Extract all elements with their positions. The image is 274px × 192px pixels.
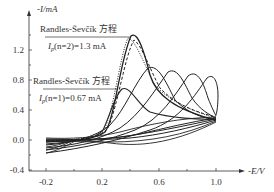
cv-curve-dotted xyxy=(46,38,216,141)
svg-text:Ip(n=1)=0.67 mA: Ip(n=1)=0.67 mA xyxy=(38,93,102,104)
y-axis-label: -I/mA xyxy=(37,4,58,14)
x-ticks xyxy=(46,168,216,171)
y-axis-arrow-icon xyxy=(27,10,31,16)
x-tick-labels: -0.2 0.2 0.6 1.0 xyxy=(39,177,222,187)
cyclic-voltammetry-chart: -0.4 0.0 0.4 0.8 1.2 -0.2 0.2 0.6 1.0 -I… xyxy=(0,0,274,192)
svg-text:0.2: 0.2 xyxy=(96,177,107,187)
x-axis-label: -E/V xyxy=(248,166,266,176)
annotation-n2: Randles-Ševčík 方程 Ip(n=2)=1.3 mA xyxy=(40,23,131,52)
svg-text:1.0: 1.0 xyxy=(210,177,222,187)
svg-text:-0.4: -0.4 xyxy=(10,165,25,175)
svg-text:1.2: 1.2 xyxy=(13,45,24,55)
svg-text:Randles-Ševčík 方程: Randles-Ševčík 方程 xyxy=(40,23,117,34)
svg-text:0.6: 0.6 xyxy=(153,177,165,187)
svg-text:0.8: 0.8 xyxy=(13,75,25,85)
svg-text:0.0: 0.0 xyxy=(13,135,25,145)
x-axis-arrow-icon xyxy=(239,169,245,173)
y-tick-labels: -0.4 0.0 0.4 0.8 1.2 xyxy=(10,45,25,175)
y-ticks xyxy=(29,35,32,170)
svg-text:-0.2: -0.2 xyxy=(39,177,53,187)
cv-curve-1 xyxy=(46,35,216,142)
annotation-n1: Randles-Ševčík 方程 Ip(n=1)=0.67 mA xyxy=(33,75,118,104)
svg-text:Randles-Ševčík 方程: Randles-Ševčík 方程 xyxy=(33,75,110,86)
cv-curve-dashed xyxy=(46,40,216,141)
svg-text:Ip(n=2)=1.3 mA: Ip(n=2)=1.3 mA xyxy=(47,41,107,52)
svg-text:0.4: 0.4 xyxy=(13,105,25,115)
